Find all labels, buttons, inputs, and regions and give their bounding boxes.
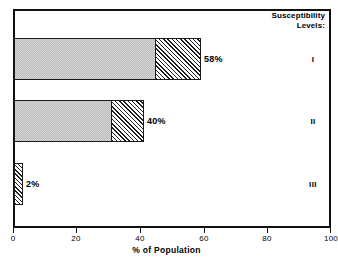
xticklabel-40: 40: [135, 234, 144, 243]
bar-level-iii: [14, 163, 23, 205]
level-label-iii: III: [309, 180, 317, 189]
legend-title-line-2: Levels:: [272, 21, 325, 31]
bar-level-i-hatch-segment: [155, 39, 200, 79]
legend-title-line-1: Susceptibility: [272, 11, 325, 21]
level-label-i: I: [312, 55, 315, 64]
bar-level-iii-hatch-segment: [15, 164, 22, 204]
bar-value-level-iii: 2%: [26, 179, 39, 189]
xticklabel-100: 100: [324, 234, 338, 243]
bar-level-ii: [14, 100, 144, 142]
level-label-ii: II: [310, 117, 315, 126]
xtick-0: [13, 228, 14, 233]
bar-level-ii-hatch-segment: [111, 101, 143, 141]
legend-title: Susceptibility Levels:: [272, 11, 325, 30]
xtick-40: [140, 228, 141, 233]
bar-value-level-i: 58%: [204, 54, 223, 64]
xticklabel-60: 60: [199, 234, 208, 243]
xtick-100: [330, 228, 331, 233]
x-axis-label: % of Population: [0, 245, 333, 255]
xtick-20: [76, 228, 77, 233]
xticklabel-80: 80: [262, 234, 271, 243]
xtick-80: [267, 228, 268, 233]
bar-level-i-stipple-segment: [15, 39, 155, 79]
xticklabel-20: 20: [71, 234, 80, 243]
bar-level-ii-stipple-segment: [15, 101, 111, 141]
xtick-60: [204, 228, 205, 233]
xticklabel-0: 0: [11, 234, 16, 243]
bar-value-level-ii: 40%: [147, 116, 166, 126]
bar-level-i: [14, 38, 201, 80]
